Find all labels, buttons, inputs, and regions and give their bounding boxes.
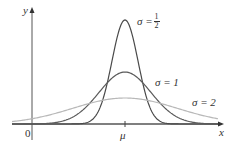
fraction: 1 2 xyxy=(154,13,160,30)
curve-sigma-two xyxy=(12,98,218,122)
y-axis-arrow-icon xyxy=(30,7,35,13)
mu-tick-label: μ xyxy=(120,130,126,141)
curve-sigma-half xyxy=(12,20,218,124)
normal-distribution-chart: y x 0 μ σ = 1 2 σ = 1 σ = 2 xyxy=(0,0,235,148)
chart-canvas xyxy=(0,0,235,148)
origin-label: 0 xyxy=(25,128,31,139)
sigma-two-label: σ = 2 xyxy=(192,97,216,108)
y-axis-label: y xyxy=(23,5,28,16)
sigma-one-label: σ = 1 xyxy=(155,77,179,88)
sigma-half-label: σ = 1 2 xyxy=(137,13,160,30)
x-axis-label: x xyxy=(219,127,224,138)
